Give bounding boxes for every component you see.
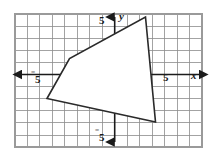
x-axis-tick-value-negative: 5: [35, 73, 41, 85]
negative-sign-icon: ⁻: [31, 69, 35, 78]
x-axis-tick-label-5: 5: [163, 72, 169, 83]
negative-sign-icon: ⁻: [95, 127, 99, 136]
y-axis-tick-label-negative-5: ⁻5: [95, 130, 105, 143]
y-axis-tick-label-5: 5: [99, 15, 105, 26]
y-axis-label: y: [119, 11, 124, 22]
x-axis-tick-label-negative-5: ⁻5: [31, 72, 41, 85]
y-axis-tick-value-negative: 5: [99, 131, 105, 143]
coordinate-grid-figure: 5 y ⁻5 5 x ⁻5: [0, 0, 215, 159]
x-axis-label: x: [191, 70, 197, 81]
